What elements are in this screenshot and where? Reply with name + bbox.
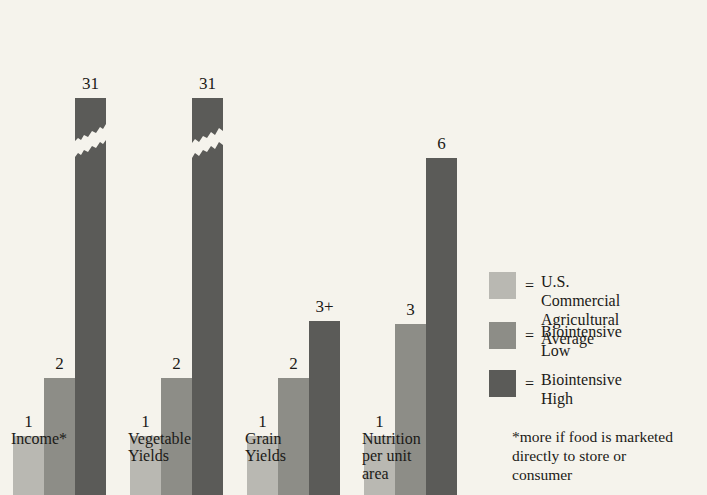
bar-vegetable-yields-biointensive-high: 31 bbox=[192, 98, 223, 495]
legend-label: Biointensive High bbox=[541, 371, 622, 409]
bar-value-label: 2 bbox=[289, 355, 298, 372]
bar-value-label: 2 bbox=[172, 355, 181, 372]
legend-equals-sign: = bbox=[525, 376, 534, 392]
bar-grain-yields-biointensive-high: 3+ bbox=[309, 321, 340, 495]
bar-income-biointensive-high: 31 bbox=[75, 98, 106, 495]
broken-scale-gap bbox=[75, 119, 106, 159]
legend-swatch-light bbox=[489, 272, 516, 299]
bar-nutrition-biointensive-high: 6 bbox=[426, 158, 457, 495]
legend-swatch-dark bbox=[489, 370, 516, 397]
bar-value-label: 2 bbox=[55, 355, 64, 372]
bar-value-label: 1 bbox=[258, 413, 267, 430]
group-label-grain-yields: Grain Yields bbox=[245, 430, 286, 465]
bar-value-label: 1 bbox=[375, 413, 384, 430]
bar-fill bbox=[309, 321, 340, 495]
bar-fill bbox=[426, 158, 457, 495]
bar-value-label: 3+ bbox=[315, 298, 333, 315]
bar-value-label: 31 bbox=[199, 75, 216, 92]
torn-gap-icon bbox=[192, 119, 223, 159]
group-label-income: Income* bbox=[11, 430, 67, 447]
legend-equals-sign: = bbox=[525, 328, 534, 344]
bar-chart: 1 2 31 Income* 1 2 31 Vegetable Yields bbox=[0, 0, 707, 495]
legend-item-biointensive-low: = Biointensive Low bbox=[489, 322, 622, 361]
bar-value-label: 6 bbox=[437, 135, 446, 152]
bar-value-label: 1 bbox=[141, 413, 150, 430]
broken-scale-gap bbox=[192, 119, 223, 159]
bar-value-label: 3 bbox=[406, 301, 415, 318]
group-label-vegetable-yields: Vegetable Yields bbox=[128, 430, 191, 465]
legend-label: Biointensive Low bbox=[541, 323, 622, 361]
footnote: *more if food is marketed directly to st… bbox=[512, 428, 707, 485]
bar-value-label: 1 bbox=[24, 413, 33, 430]
legend-swatch-medium bbox=[489, 322, 516, 349]
bar-value-label: 31 bbox=[82, 75, 99, 92]
legend-equals-sign: = bbox=[525, 278, 534, 294]
legend-item-biointensive-high: = Biointensive High bbox=[489, 370, 622, 409]
group-label-nutrition-per-unit-area: Nutrition per unit area bbox=[362, 430, 421, 482]
torn-gap-icon bbox=[75, 119, 106, 159]
